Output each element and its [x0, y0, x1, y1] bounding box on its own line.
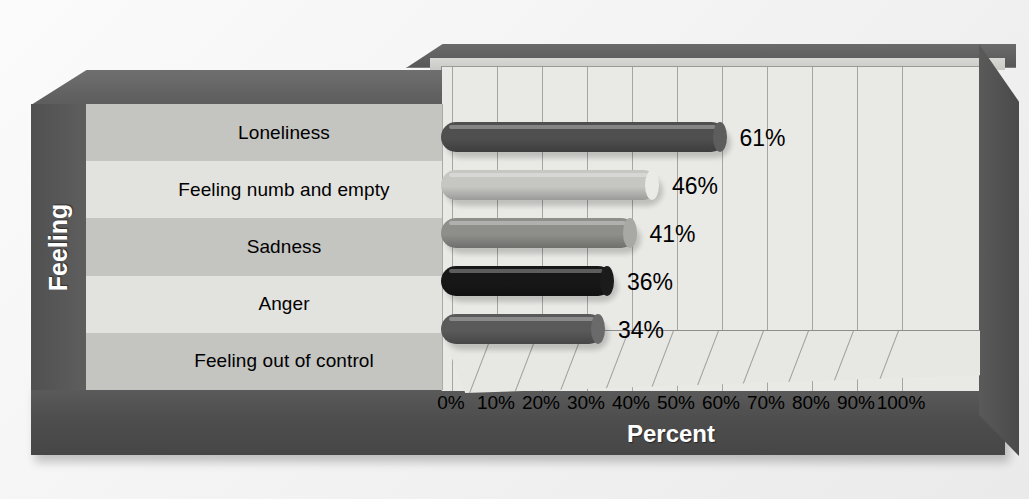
category-label: Sadness — [207, 236, 322, 258]
bar-highlight — [449, 269, 603, 273]
bar[interactable] — [441, 218, 636, 248]
bar[interactable] — [441, 170, 658, 200]
x-axis-tick-label: 90% — [837, 392, 875, 414]
table-row: 34% — [441, 314, 980, 348]
x-axis-tick-label: 60% — [702, 392, 740, 414]
bar-end-cap — [623, 218, 637, 248]
bar-value-label: 34% — [618, 317, 664, 344]
bar[interactable] — [441, 314, 604, 344]
bar-end-cap — [645, 170, 659, 200]
x-axis-title: Percent — [441, 420, 901, 448]
bar-value-label: 46% — [672, 173, 718, 200]
category-band: Sadness — [86, 218, 442, 275]
category-band: Anger — [86, 276, 442, 333]
right-side-wall — [979, 44, 1019, 456]
x-axis-tick-label: 70% — [747, 392, 785, 414]
x-axis-tick-label: 40% — [612, 392, 650, 414]
x-axis-tick-label: 30% — [567, 392, 605, 414]
x-axis-tick-label: 100% — [877, 392, 926, 414]
x-axis-tick-label: 0% — [437, 392, 464, 414]
x-axis-tick-label: 10% — [477, 392, 515, 414]
table-row: 36% — [441, 266, 980, 300]
bar-value-label: 41% — [650, 221, 696, 248]
bar-value-label: 61% — [740, 125, 786, 152]
bar-series: 61%46%41%36%34% — [441, 66, 980, 390]
bar[interactable] — [441, 266, 613, 296]
bar-value-label: 36% — [627, 269, 673, 296]
y-axis-title: Feeling — [31, 104, 86, 390]
x-axis-tick-label: 50% — [657, 392, 695, 414]
bar-highlight — [449, 173, 648, 177]
category-label: Feeling out of control — [154, 350, 374, 372]
table-row: 41% — [441, 218, 980, 252]
category-band: Feeling out of control — [86, 333, 442, 390]
table-row: 61% — [441, 122, 980, 156]
x-axis-ticks: 0%10%20%30%40%50%60%70%80%90%100% — [441, 392, 980, 420]
y-axis-title-label: Feeling — [44, 203, 73, 291]
category-band: Loneliness — [86, 104, 442, 161]
category-panel: LonelinessFeeling numb and emptySadnessA… — [86, 104, 443, 390]
category-band: Feeling numb and empty — [86, 161, 442, 218]
x-axis-tick-label: 20% — [522, 392, 560, 414]
bar-highlight — [449, 317, 594, 321]
x-axis-tick-label: 80% — [792, 392, 830, 414]
bar-end-cap — [600, 266, 614, 296]
category-panel-top — [31, 70, 442, 105]
category-label: Feeling numb and empty — [138, 179, 389, 201]
bar-highlight — [449, 125, 716, 129]
category-label: Anger — [218, 293, 309, 315]
bar-end-cap — [713, 122, 727, 152]
chart-root: LonelinessFeeling numb and emptySadnessA… — [0, 0, 1029, 499]
bar[interactable] — [441, 122, 726, 152]
bar-highlight — [449, 221, 626, 225]
table-row: 46% — [441, 170, 980, 204]
bar-end-cap — [591, 314, 605, 344]
category-label: Loneliness — [198, 122, 330, 144]
